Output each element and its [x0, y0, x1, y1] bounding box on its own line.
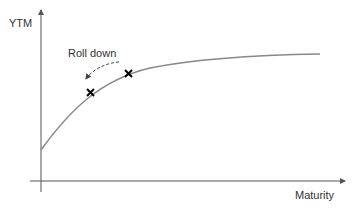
yield-curve — [41, 54, 320, 150]
roll-down-arrow — [86, 62, 119, 79]
y-axis-label: YTM — [9, 17, 32, 29]
marker-short — [87, 89, 94, 96]
yield-curve-diagram — [0, 0, 353, 213]
roll-down-label: Roll down — [68, 47, 116, 59]
x-axis-label: Maturity — [295, 189, 334, 201]
